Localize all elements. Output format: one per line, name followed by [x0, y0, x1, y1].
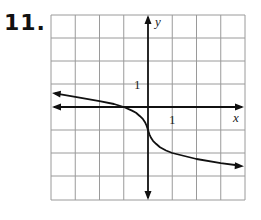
x-axis-label: x [232, 110, 239, 125]
y-axis-arrow-down-icon [145, 191, 152, 200]
y-tick-label: 1 [134, 77, 141, 92]
curve-arrow-left-icon [52, 91, 61, 98]
x-tick-label: 1 [169, 112, 176, 127]
x-axis-arrow-left-icon [52, 104, 61, 111]
coordinate-graph: y x 1 1 [0, 0, 261, 220]
y-axis-label: y [153, 14, 161, 29]
y-axis-arrow-up-icon [145, 15, 152, 24]
curve-arrow-right-icon [235, 162, 244, 169]
axes [52, 15, 244, 200]
